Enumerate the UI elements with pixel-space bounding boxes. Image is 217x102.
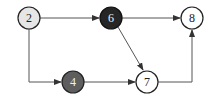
node-8: 8 (181, 7, 203, 29)
node-4-label: 4 (70, 75, 76, 89)
node-7-label: 7 (144, 75, 150, 89)
edge-2-to-4 (29, 29, 61, 82)
graph-diagram: 2 6 8 4 7 (0, 0, 217, 102)
node-6: 6 (100, 7, 122, 29)
edge-7-to-8 (158, 30, 192, 82)
node-2: 2 (18, 7, 40, 29)
node-2-label: 2 (26, 11, 32, 25)
node-6-label: 6 (108, 11, 114, 25)
edge-6-to-7 (118, 27, 143, 70)
node-7: 7 (136, 71, 158, 93)
node-8-label: 8 (189, 11, 195, 25)
node-4: 4 (62, 71, 84, 93)
